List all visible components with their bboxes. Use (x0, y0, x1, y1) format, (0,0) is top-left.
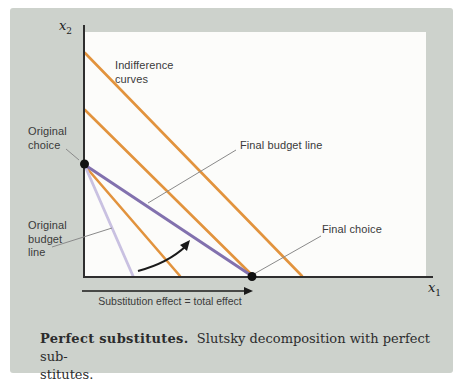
figure-caption: Perfect substitutes. Slutsky decompositi… (40, 330, 432, 384)
substitution-effect-note: Substitution effect = total effect (70, 295, 270, 307)
original-choice-leader (66, 149, 79, 160)
indifference-curves-label: Indifference curves (115, 59, 173, 86)
original-choice-dot (80, 160, 89, 169)
original-choice-label: Original choice (28, 125, 67, 152)
caption-line-2: stitutes. (40, 366, 432, 384)
x-axis-label: x1 (428, 280, 441, 298)
y-axis-label: x2 (59, 18, 72, 36)
final-budget-line-label: Final budget line (240, 139, 322, 153)
final-choice-dot (248, 272, 257, 281)
figure-stage: x2 x1 Indifference curves Original choic… (0, 0, 461, 390)
caption-title: Perfect substitutes. (40, 331, 189, 346)
substitution-arrow-head (244, 287, 253, 295)
original-budget-line-label: Original budget line (28, 219, 67, 260)
caption-line-1: Perfect substitutes. Slutsky decompositi… (40, 330, 432, 366)
final-choice-label: Final choice (322, 223, 382, 237)
